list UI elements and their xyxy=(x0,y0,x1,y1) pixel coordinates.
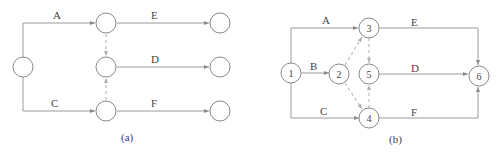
edge-label-a-C: C xyxy=(51,97,58,109)
node-a-bottom-mid xyxy=(96,101,116,121)
edge-b-E xyxy=(379,28,478,65)
node-a-mid-end xyxy=(210,57,230,77)
node-a-bottom-end xyxy=(210,101,230,121)
edge-label-a-A: A xyxy=(53,9,61,21)
edge-label-a-D: D xyxy=(151,53,159,65)
node-label-5: 5 xyxy=(367,69,372,80)
edge-label-b-F: F xyxy=(411,106,417,118)
edge-b-A xyxy=(291,28,358,63)
node-b-4: 4 xyxy=(359,108,379,128)
edge-label-b-B: B xyxy=(310,60,317,72)
dummy-edge-b-2-4 xyxy=(345,83,362,109)
node-label-3: 3 xyxy=(367,23,372,34)
node-b-6: 6 xyxy=(469,66,489,86)
edge-a-A xyxy=(23,23,95,57)
diagram-b: 1 2 3 5 4 6 A B C E D F (b) xyxy=(281,14,489,146)
edge-a-C xyxy=(23,77,95,111)
node-a-start xyxy=(13,57,33,77)
dummy-edge-b-2-3 xyxy=(345,37,362,65)
node-label-6: 6 xyxy=(477,71,482,82)
edge-label-b-D: D xyxy=(411,62,419,74)
node-b-2: 2 xyxy=(329,64,349,84)
node-label-2: 2 xyxy=(337,69,342,80)
edge-b-F xyxy=(379,87,478,118)
edge-label-b-E: E xyxy=(411,16,418,28)
edge-label-a-F: F xyxy=(151,97,157,109)
edge-label-b-C: C xyxy=(320,105,327,117)
diagram-a: A C E D F (a) xyxy=(13,9,230,144)
network-diagrams: A C E D F (a) 1 2 3 5 xyxy=(0,0,498,156)
node-b-3: 3 xyxy=(359,18,379,38)
caption-b: (b) xyxy=(389,133,402,146)
caption-a: (a) xyxy=(121,131,134,144)
node-b-1: 1 xyxy=(281,63,301,83)
node-a-top-mid xyxy=(96,13,116,33)
node-label-1: 1 xyxy=(289,68,294,79)
edge-label-b-A: A xyxy=(322,14,330,26)
node-a-top-end xyxy=(210,13,230,33)
node-b-5: 5 xyxy=(359,64,379,84)
node-label-4: 4 xyxy=(367,113,372,124)
node-a-center xyxy=(96,57,116,77)
edge-label-a-E: E xyxy=(151,9,158,21)
